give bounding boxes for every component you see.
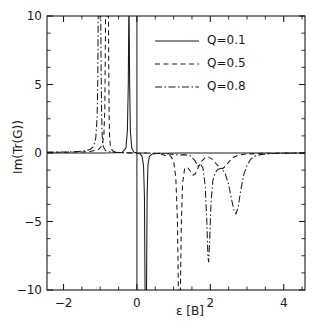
x-tick-label: 4 — [280, 296, 288, 310]
y-tick-label: −10 — [17, 283, 42, 297]
legend-label-q08: Q=0.8 — [207, 79, 246, 93]
y-tick-label: 10 — [27, 9, 42, 23]
series-line-q01 — [47, 16, 305, 290]
x-tick-label: 0 — [133, 296, 141, 310]
chart-figure: Im(Tr(G)) ε [B] −2024 −10−50510 Q=0.1Q=0… — [0, 0, 323, 332]
x-tick-label: −2 — [55, 296, 73, 310]
y-axis-label: Im(Tr(G)) — [11, 107, 25, 187]
plot-canvas — [0, 0, 323, 332]
y-tick-label: 0 — [34, 146, 42, 160]
y-tick-label: 5 — [34, 78, 42, 92]
legend-label-q05: Q=0.5 — [207, 56, 246, 70]
x-tick-label: 2 — [206, 296, 214, 310]
data-series-group — [47, 16, 305, 290]
legend-label-q01: Q=0.1 — [207, 33, 246, 47]
x-axis-label: ε [B] — [176, 304, 204, 318]
y-tick-label: −5 — [24, 215, 42, 229]
series-line-q08 — [47, 16, 305, 262]
legend-line-samples — [155, 41, 199, 87]
